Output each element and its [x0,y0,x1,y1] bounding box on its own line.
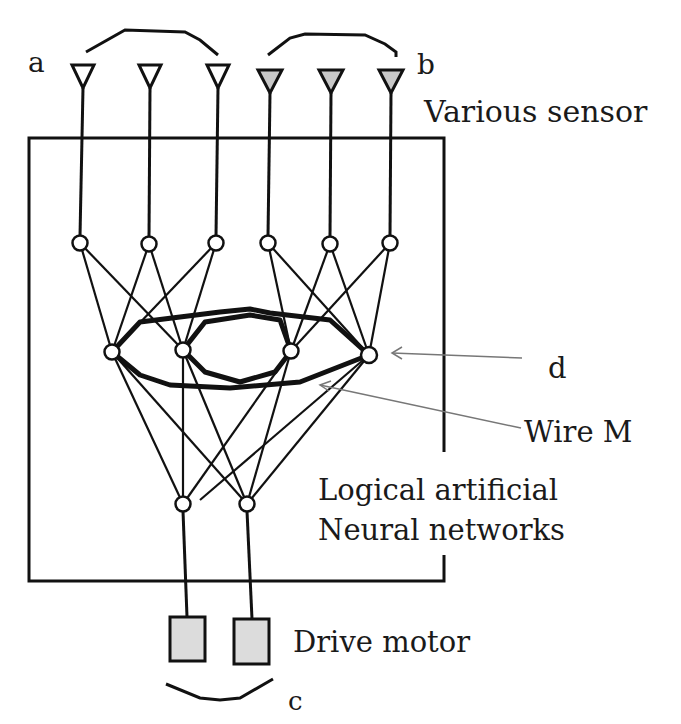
neuron-node [176,343,191,358]
sensor-icon [258,70,282,93]
motor-group-bracket [166,679,273,700]
neuron-node [284,344,299,359]
sensor-group-b-bracket [268,34,396,57]
neuron-node [73,236,88,251]
label-d: d [548,351,567,385]
sensor-icon [319,70,343,93]
neuron-node [261,236,276,251]
neuron-node [209,236,224,251]
neuron-node-d [361,347,377,363]
sensor-icon [207,65,229,88]
wire-m [112,309,369,388]
label-drive-motor: Drive motor [293,625,470,659]
output-layer-nodes [176,497,255,512]
neuron-node [105,345,120,360]
label-c: c [288,686,303,716]
label-various-sensor: Various sensor [423,94,648,129]
neuron-node [240,497,255,512]
sensor-group-a-bracket [86,30,218,55]
neuron-node [176,497,191,512]
drive-motors [170,617,269,664]
sensors-group-a [72,65,229,88]
neural-network-diagram: a b Various sensor [0,0,681,724]
motor-icon [170,617,205,661]
label-b: b [417,48,435,81]
label-network-line2: Neural networks [318,513,565,547]
neuron-node [383,236,398,251]
sensor-icon [72,65,94,88]
motor-icon [234,619,269,664]
label-a: a [28,46,45,79]
annotation-arrows [320,347,522,428]
sensors-group-b [258,70,403,93]
label-wire-m: Wire M [524,415,633,449]
neuron-node [142,237,157,252]
input-layer-nodes [73,236,398,252]
sensor-icon [139,65,161,88]
label-network-line1: Logical artificial [318,473,558,507]
neuron-node [323,237,338,252]
motor-stems [183,511,252,619]
hidden-layer-nodes [105,343,378,364]
sensor-icon [379,70,403,93]
sensor-stems [80,88,391,237]
